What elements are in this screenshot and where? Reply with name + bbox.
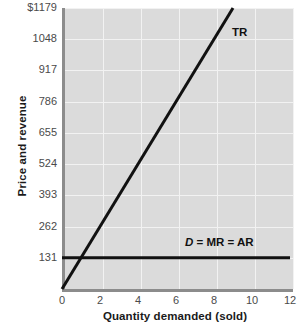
y-tick-label: 131: [0, 252, 57, 263]
y-tick-label: 786: [0, 96, 57, 107]
gridline-vertical: [179, 8, 180, 289]
x-axis-line: [62, 289, 293, 292]
x-axis-title: Quantity demanded (sold): [50, 310, 300, 322]
y-tick-label: $1179: [0, 2, 57, 13]
y-tick-label: 917: [0, 64, 57, 75]
gridline-vertical: [293, 8, 294, 289]
plot-grid: [65, 8, 293, 289]
chart-figure: Price and revenue 1312623935246557869171…: [0, 0, 307, 328]
x-tick-label: 8: [199, 294, 229, 306]
y-tick-label: 1048: [0, 33, 57, 44]
y-tick-label: 524: [0, 158, 57, 169]
gridline-vertical: [141, 8, 142, 289]
x-tick-label: 12: [275, 294, 305, 306]
series-label-demand: D = MR = AR: [185, 236, 254, 248]
y-tick-label: 393: [0, 189, 57, 200]
x-tick-label: 6: [161, 294, 191, 306]
gridline-vertical: [255, 8, 256, 289]
gridline-vertical: [103, 8, 104, 289]
y-axis-tick-labels: 1312623935246557869171048$1179: [0, 0, 57, 328]
plot-area: [62, 8, 293, 289]
x-tick-label: 4: [123, 294, 153, 306]
x-tick-label: 2: [85, 294, 115, 306]
series-label-tr: TR: [232, 26, 247, 38]
y-tick-label: 655: [0, 127, 57, 138]
x-tick-label: 10: [237, 294, 267, 306]
y-tick-label: 262: [0, 221, 57, 232]
x-tick-label: 0: [47, 294, 77, 306]
